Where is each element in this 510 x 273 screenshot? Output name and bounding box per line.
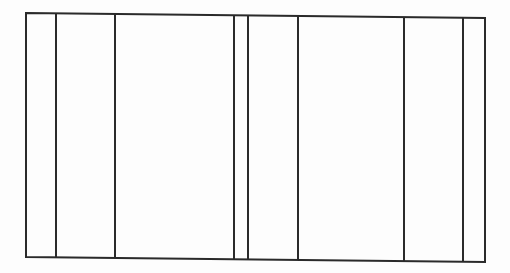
vertical-dividers	[56, 13, 463, 261]
strip-diagram	[0, 0, 510, 273]
outer-rectangle	[26, 13, 485, 262]
